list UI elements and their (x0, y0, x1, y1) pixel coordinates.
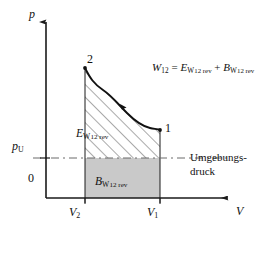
eq-w-sub: 12 (161, 67, 169, 75)
x-axis-label: V (236, 205, 243, 217)
ambient-annotation-line2: druck (190, 166, 215, 177)
state-point-2-label: 2 (87, 53, 93, 65)
bw-base: B (95, 175, 102, 187)
eq-b-sub2: 12 rev (237, 67, 254, 74)
state-point-2-marker (83, 66, 87, 70)
v1-tick-label: V1 (147, 206, 159, 220)
eq-b-sub: W (230, 67, 237, 75)
expansion-work-region (85, 68, 160, 158)
ew-sub2: 12 rev (90, 133, 108, 141)
v1-subscript: 1 (154, 211, 158, 220)
pu-subscript: U (18, 145, 24, 154)
expansion-work-label: EW12 rev (76, 128, 108, 141)
pv-diagram-figure (0, 0, 268, 255)
v2-subscript: 2 (76, 211, 80, 220)
displacement-work-label: BW12 rev (95, 176, 127, 189)
bw-sub2: 12 rev (109, 181, 127, 189)
state-point-1-marker (158, 128, 162, 132)
origin-label: 0 (28, 172, 34, 184)
y-axis-label: p (29, 8, 35, 20)
eq-equals: = (172, 61, 178, 73)
ew-base: E (76, 127, 83, 139)
eq-plus: + (214, 61, 220, 73)
eq-w: W (152, 61, 161, 73)
eq-e-sub2: 12 rev (194, 67, 211, 74)
ambient-annotation-line1: Umgebungs- (190, 152, 247, 163)
state-point-1-label: 1 (165, 122, 171, 134)
ambient-pressure-label: pU (12, 140, 24, 154)
work-balance-equation: W12 = EW12 rev + BW12 rev (152, 62, 254, 75)
eq-b: B (223, 61, 230, 73)
v2-tick-label: V2 (69, 206, 81, 220)
